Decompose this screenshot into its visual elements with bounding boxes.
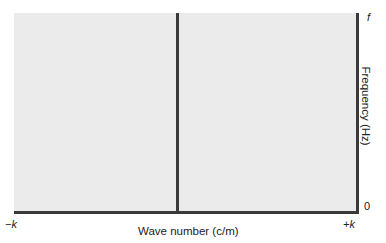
x-axis-title: Wave number (c/m) xyxy=(138,225,239,237)
x-max-tick-label: +k xyxy=(343,218,355,230)
y-top-tick-label: f xyxy=(367,11,370,23)
zero-wavenumber-line xyxy=(176,13,179,213)
y-axis-title: Frequency (Hz) xyxy=(360,66,372,145)
y-zero-tick-label: 0 xyxy=(364,200,370,212)
plot-area xyxy=(14,13,357,213)
x-axis-line xyxy=(14,211,359,214)
y-axis-line xyxy=(356,13,359,214)
x-min-tick-label: −k xyxy=(5,218,17,230)
